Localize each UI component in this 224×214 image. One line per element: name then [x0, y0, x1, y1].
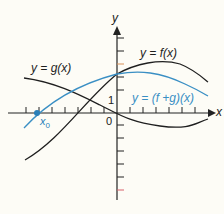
origin-label: 0 — [106, 116, 112, 127]
sum-curve-label: y = (f +g)(x) — [132, 92, 194, 104]
x-axis-arrow-icon — [208, 109, 216, 117]
x0-label: x0 — [40, 116, 50, 130]
f-curve-label: y = f(x) — [140, 47, 177, 59]
y-axis-arrow-icon — [113, 26, 121, 35]
g-curve-label: y = g(x) — [31, 62, 71, 74]
x0-label-subscript: 0 — [46, 121, 50, 130]
y-axis-label: y — [112, 12, 118, 24]
function-sum-diagram — [0, 0, 224, 214]
unit-label: 1 — [108, 95, 114, 106]
x-axis-label: x — [216, 106, 222, 118]
